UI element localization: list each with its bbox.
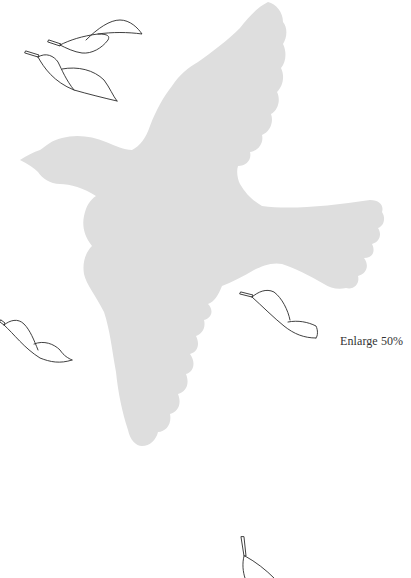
template-artwork — [0, 0, 411, 578]
leaf-right-middle-icon — [240, 290, 318, 338]
leaf-top-upper-icon — [48, 20, 142, 53]
bird-silhouette-icon — [20, 2, 384, 446]
leaf-top-lower-icon — [25, 51, 117, 101]
leaf-bottom-partial-icon — [241, 537, 274, 578]
leaf-left-middle-icon — [0, 320, 72, 362]
template-page: Enlarge 50% — [0, 0, 411, 578]
enlarge-instruction-label: Enlarge 50% — [340, 334, 403, 349]
